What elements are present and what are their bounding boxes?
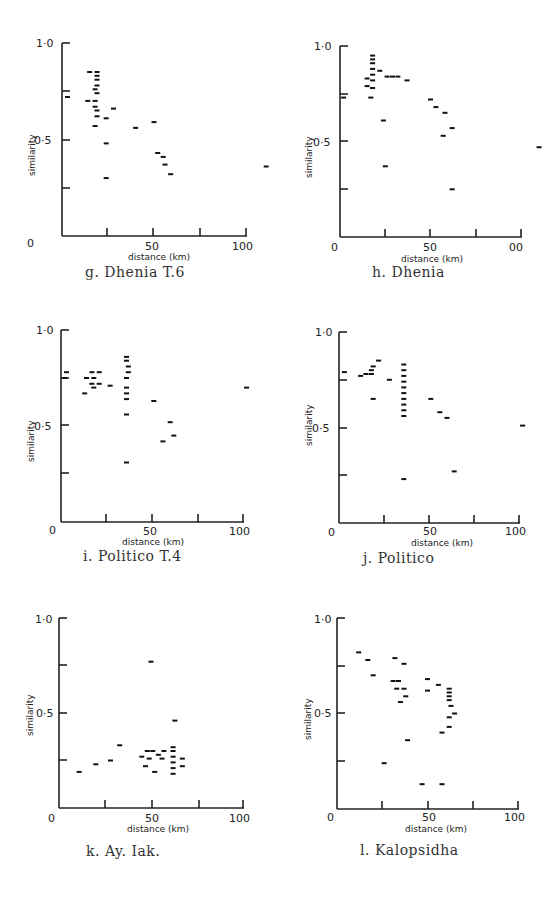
y-tick-05: 0·5 — [314, 707, 332, 720]
x-axis-label: distance (km) — [405, 824, 467, 834]
data-point — [436, 684, 441, 686]
data-point — [449, 705, 454, 707]
origin-label: 0 — [327, 811, 334, 824]
data-point — [371, 674, 376, 676]
y-tick-1: 1·0 — [314, 613, 332, 626]
axes — [337, 618, 519, 809]
data-point — [394, 688, 399, 690]
data-point — [391, 680, 396, 682]
data-point — [440, 732, 445, 734]
data-point — [402, 663, 407, 665]
y-axis-label: similarity — [303, 698, 313, 740]
data-point — [447, 726, 452, 728]
data-point — [365, 659, 370, 661]
x-tick-50: 50 — [422, 811, 436, 824]
data-point — [440, 783, 445, 785]
data-point — [447, 699, 452, 701]
scatter-plot-l: 1·0 0·5 0 50 100 distance (km) similarit… — [0, 0, 557, 907]
data-point — [447, 692, 452, 694]
panel-caption: l. Kalopsidha — [360, 842, 459, 858]
data-point — [405, 739, 410, 741]
data-point — [425, 690, 430, 692]
data-point — [402, 688, 407, 690]
data-point — [425, 678, 430, 680]
data-point — [447, 688, 452, 690]
data-point — [382, 762, 387, 764]
data-point — [447, 695, 452, 697]
data-point — [403, 695, 408, 697]
data-point — [420, 783, 425, 785]
data-point — [452, 713, 457, 715]
data-point — [396, 680, 401, 682]
data-points — [356, 651, 457, 785]
data-point — [392, 657, 397, 659]
x-tick-100: 100 — [504, 811, 525, 824]
data-point — [447, 716, 452, 718]
panel-l: 1·0 0·5 0 50 100 distance (km) similarit… — [0, 0, 270, 300]
data-point — [356, 651, 361, 653]
data-point — [398, 701, 403, 703]
